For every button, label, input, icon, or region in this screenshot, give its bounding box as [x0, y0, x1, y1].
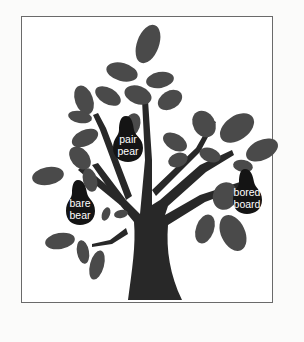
pear-label-line1: bare — [69, 197, 90, 209]
leaf — [104, 59, 140, 85]
pear-label-line2: pear — [117, 145, 139, 157]
leaf — [92, 82, 124, 110]
pear-label-line2: board — [234, 198, 261, 210]
leaf — [242, 134, 281, 166]
leaf — [44, 231, 76, 252]
leaf — [214, 211, 252, 256]
leaf — [166, 150, 190, 170]
leaf — [191, 212, 218, 246]
leaf — [215, 107, 260, 148]
leaf — [31, 164, 66, 187]
pear-label-line1: pair — [119, 133, 137, 145]
leaf — [100, 206, 112, 222]
tree-illustration: pair pear bare bear bored board — [0, 0, 304, 342]
leaf — [75, 239, 91, 265]
pear-label-line1: bored — [234, 186, 261, 198]
leaf — [154, 86, 186, 115]
leaf — [86, 249, 107, 282]
leaf — [187, 106, 220, 141]
leaf — [160, 129, 191, 156]
pear-label-line2: bear — [69, 209, 91, 221]
leaf — [131, 21, 165, 66]
pear-bored-board: bored board — [233, 169, 262, 214]
leaf — [145, 70, 175, 91]
